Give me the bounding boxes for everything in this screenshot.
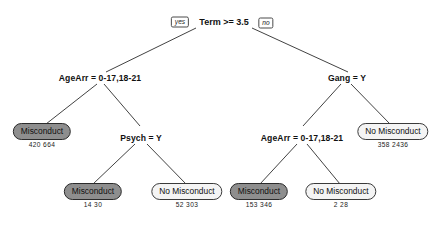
edge-agearrL-left bbox=[46, 84, 97, 124]
edge-root-no bbox=[252, 28, 348, 72]
leaf-label-4: Misconduct bbox=[230, 183, 288, 200]
leaf-counts-5: 2 28 bbox=[305, 201, 376, 208]
edge-agearrR-right bbox=[307, 144, 340, 184]
edge-root-yes bbox=[106, 28, 196, 72]
edge-gang-right bbox=[351, 84, 390, 124]
split-node-gang: Gang = Y bbox=[328, 73, 366, 83]
split-node-agearr-right: AgeArr = 0-17,18-21 bbox=[261, 133, 343, 143]
leaf-counts-1: 420 664 bbox=[13, 141, 71, 148]
leaf-label-1: Misconduct bbox=[13, 123, 71, 140]
leaf-label-2: Misconduct bbox=[64, 183, 122, 200]
branch-tag-no: no bbox=[258, 18, 273, 29]
edge-psych-right bbox=[147, 144, 186, 184]
split-node-psych: Psych = Y bbox=[120, 133, 162, 143]
edge-agearrL-right bbox=[104, 84, 140, 126]
leaf-counts-2: 14 30 bbox=[64, 201, 122, 208]
leaf-counts-6: 358 2436 bbox=[357, 141, 428, 148]
edge-gang-left bbox=[303, 84, 341, 126]
decision-tree-diagram: Term >= 3.5 yes no AgeArr = 0-17,18-21 G… bbox=[0, 0, 444, 231]
root-split-label: Term >= 3.5 bbox=[199, 17, 248, 27]
leaf-label-6: No Misconduct bbox=[357, 123, 428, 140]
leaf-node-1: Misconduct 420 664 bbox=[13, 120, 71, 148]
edge-psych-left bbox=[93, 144, 135, 184]
branch-tag-yes: yes bbox=[171, 17, 189, 28]
leaf-counts-3: 52 303 bbox=[151, 201, 222, 208]
leaf-node-3: No Misconduct 52 303 bbox=[151, 180, 222, 208]
edge-agearrR-left bbox=[260, 144, 297, 184]
leaf-label-3: No Misconduct bbox=[151, 183, 222, 200]
leaf-counts-4: 153 346 bbox=[230, 201, 288, 208]
leaf-label-5: No Misconduct bbox=[305, 183, 376, 200]
split-node-agearr-left: AgeArr = 0-17,18-21 bbox=[59, 73, 141, 83]
leaf-node-4: Misconduct 153 346 bbox=[230, 180, 288, 208]
leaf-node-2: Misconduct 14 30 bbox=[64, 180, 122, 208]
leaf-node-5: No Misconduct 2 28 bbox=[305, 180, 376, 208]
leaf-node-6: No Misconduct 358 2436 bbox=[357, 120, 428, 148]
